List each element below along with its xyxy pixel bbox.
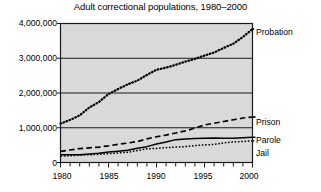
plot-area: [0, 0, 321, 192]
chart-figure: Adult correctional populations, 1980–200…: [0, 0, 321, 192]
